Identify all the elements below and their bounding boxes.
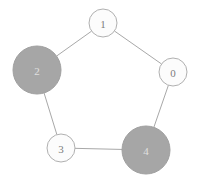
graph-node-4[interactable]: 4	[122, 126, 170, 174]
graph-canvas: 01234	[0, 0, 200, 179]
graph-node-1[interactable]: 1	[89, 9, 117, 37]
graph-edge	[154, 85, 169, 127]
graph-node-2[interactable]: 2	[13, 46, 61, 94]
node-label: 0	[170, 67, 176, 79]
graph-edge	[44, 93, 57, 135]
graph-figure: 01234	[0, 0, 200, 179]
node-label: 3	[58, 143, 64, 155]
graph-node-3[interactable]: 3	[47, 134, 75, 162]
graph-edge	[57, 31, 92, 56]
graph-edge	[75, 148, 122, 149]
node-label: 1	[100, 18, 106, 30]
node-label: 4	[143, 145, 149, 157]
node-label: 2	[34, 65, 40, 77]
graph-edge	[114, 31, 161, 64]
graph-node-0[interactable]: 0	[159, 58, 187, 86]
